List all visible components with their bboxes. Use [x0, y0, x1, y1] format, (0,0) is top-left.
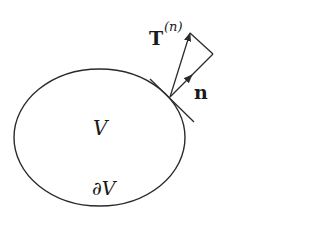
boundary-label: ∂V	[92, 179, 116, 198]
tangent-line	[150, 79, 194, 122]
normal-vector-label: n	[194, 83, 208, 102]
region-label: V	[93, 118, 107, 138]
traction-superscript: (n)	[164, 20, 183, 33]
parallelogram-connector	[190, 33, 213, 54]
normal-vector-second-half	[191, 54, 213, 76]
traction-vector-label: T	[149, 29, 163, 48]
